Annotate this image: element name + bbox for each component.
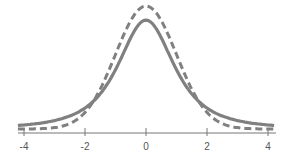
- x-tick-label: 0: [143, 141, 149, 152]
- normal-distribution-curve: [18, 6, 274, 129]
- x-tick-label: 2: [204, 141, 210, 152]
- x-tick-label: 4: [265, 141, 271, 152]
- t-distribution-curve: [18, 20, 274, 125]
- x-tick-label: -4: [20, 141, 29, 152]
- density-chart: -4-2024: [0, 0, 293, 164]
- x-tick-label: -2: [81, 141, 90, 152]
- x-axis-ticks: -4-2024: [20, 128, 272, 152]
